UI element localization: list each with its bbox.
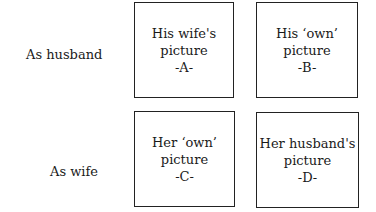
box-d-husbands-picture: Her husband's picture -D- xyxy=(256,112,359,208)
box-c-line1: Her ‘own’ xyxy=(152,134,217,151)
box-a-tag: -A- xyxy=(175,59,193,76)
box-b-line2: picture xyxy=(283,42,330,59)
box-c-tag: -C- xyxy=(175,168,194,185)
box-c-line2: picture xyxy=(161,151,208,168)
box-c-own-picture: Her ‘own’ picture -C- xyxy=(134,111,235,207)
box-a-line2: picture xyxy=(160,42,207,59)
box-a-line1: His wife's xyxy=(152,25,216,42)
box-d-line1: Her husband's xyxy=(260,135,356,152)
box-d-line2: picture xyxy=(284,152,331,169)
box-b-tag: -B- xyxy=(298,59,317,76)
box-a-wifes-picture: His wife's picture -A- xyxy=(134,2,234,98)
row-label-husband: As husband xyxy=(26,47,102,63)
box-b-own-picture: His ‘own’ picture -B- xyxy=(256,2,358,98)
box-b-line1: His ‘own’ xyxy=(276,25,338,42)
box-d-tag: -D- xyxy=(298,169,317,186)
row-label-wife: As wife xyxy=(50,164,98,180)
